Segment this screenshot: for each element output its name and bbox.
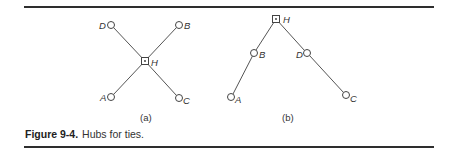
edge-b-a — [233, 56, 253, 94]
node-label-d: D — [296, 49, 303, 60]
node-label-b: B — [184, 20, 191, 31]
edge-h-a — [114, 61, 146, 95]
node-a — [108, 94, 115, 101]
panel-a: D B A C H (a) — [99, 20, 191, 123]
node-label-a: A — [99, 92, 106, 103]
node-label-c: C — [350, 93, 357, 104]
panel-label-b: (b) — [282, 112, 294, 123]
hub-label-h: H — [283, 14, 290, 25]
node-d — [108, 22, 115, 29]
node-label-d: D — [99, 20, 106, 31]
panel-b: B D A C H (b) — [228, 14, 358, 123]
node-c — [176, 95, 183, 102]
node-label-a: A — [234, 94, 241, 105]
node-label-b: B — [259, 49, 266, 60]
node-d — [304, 50, 311, 57]
edge-h-d — [276, 19, 305, 51]
panel-label-a: (a) — [140, 112, 152, 123]
node-label-c: C — [183, 95, 190, 106]
edge-h-c — [145, 61, 177, 96]
edge-d-c — [310, 56, 344, 93]
hub-dot — [275, 18, 277, 20]
figure-number: Figure 9-4. — [25, 128, 78, 140]
node-b — [176, 22, 183, 29]
edge-h-d — [114, 28, 146, 62]
figure-caption: Figure 9-4.Hubs for ties. — [25, 128, 144, 140]
node-c — [343, 92, 350, 99]
edge-h-b — [256, 19, 276, 50]
node-b — [251, 50, 258, 57]
hub-dot — [144, 60, 146, 62]
bottom-rule — [24, 146, 434, 148]
hub-label-h: H — [151, 57, 158, 68]
node-a — [228, 94, 235, 101]
figure-caption-text: Hubs for ties. — [82, 128, 144, 140]
edge-h-b — [145, 28, 177, 62]
